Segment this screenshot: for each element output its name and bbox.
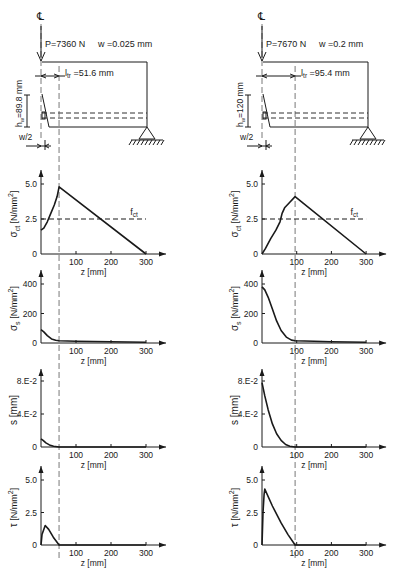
y-axis-label: σs [N/mm2] xyxy=(7,286,21,331)
crack-width-label: w =0.025 mm xyxy=(97,39,152,49)
chart-sigma-ct: 5.02.50100200300z [mm]σct [N/mm2]fct xyxy=(228,170,386,277)
x-axis-label: z [mm] xyxy=(301,267,327,277)
x-tick-label: 100 xyxy=(290,257,304,267)
x-axis-arrow-icon xyxy=(159,252,166,257)
x-axis-label: z [mm] xyxy=(81,356,107,366)
y-tick-label: 0 xyxy=(253,442,258,452)
x-tick-label: 300 xyxy=(139,548,153,558)
x-axis-arrow-icon xyxy=(159,543,166,548)
chart-sigma-ct: 5.02.50100200300z [mm]σct [N/mm2]fct xyxy=(7,170,166,277)
x-tick-label: 100 xyxy=(290,450,304,460)
x-axis-label: z [mm] xyxy=(301,356,327,366)
support-icon xyxy=(360,127,376,139)
x-axis-arrow-icon xyxy=(159,341,166,346)
x-tick-label: 100 xyxy=(69,346,83,356)
y-tick-label: 0 xyxy=(253,338,258,348)
x-tick-label: 200 xyxy=(324,257,338,267)
y-tick-label: 2.5 xyxy=(25,214,37,224)
fct-label: fct xyxy=(130,207,138,218)
x-tick-label: 200 xyxy=(324,346,338,356)
centerline-symbol: ℄ xyxy=(36,10,44,22)
x-axis-label: z [mm] xyxy=(301,460,327,470)
x-axis-arrow-icon xyxy=(159,445,166,450)
support-icon xyxy=(139,127,155,139)
y-tick-label: 200 xyxy=(244,309,258,319)
y-axis-label: s [mm] xyxy=(229,395,240,425)
x-tick-label: 300 xyxy=(359,548,373,558)
y-tick-label: 400 xyxy=(244,279,258,289)
x-axis-arrow-icon xyxy=(379,341,386,346)
panel-left: ℄P=7360 Nw =0.025 mmltr =51.6 mmhw=89.8 … xyxy=(7,10,166,568)
x-tick-label: 100 xyxy=(290,548,304,558)
x-tick-label: 300 xyxy=(139,450,153,460)
fct-label: fct xyxy=(350,207,358,218)
hw-label: hw=89.8 mm xyxy=(14,80,25,127)
y-axis-arrow-icon xyxy=(260,170,265,177)
x-tick-label: 100 xyxy=(69,450,83,460)
x-axis-label: z [mm] xyxy=(81,460,107,470)
x-axis-arrow-icon xyxy=(379,543,386,548)
data-curve xyxy=(41,526,146,546)
x-axis-arrow-icon xyxy=(379,445,386,450)
x-tick-label: 300 xyxy=(359,257,373,267)
y-tick-label: 0 xyxy=(32,442,37,452)
y-axis-arrow-icon xyxy=(39,170,44,177)
x-tick-label: 300 xyxy=(139,346,153,356)
y-axis-label: σct [N/mm2] xyxy=(228,190,242,237)
y-axis-label: τ [N/mm2] xyxy=(228,488,240,527)
y-axis-label: s [mm] xyxy=(8,395,19,425)
x-axis-arrow-icon xyxy=(379,252,386,257)
crack-analysis-figure: ℄P=7360 Nw =0.025 mmltr =51.6 mmhw=89.8 … xyxy=(0,0,399,577)
x-tick-label: 200 xyxy=(324,450,338,460)
ltr-label: ltr =51.6 mm xyxy=(65,68,114,79)
half-crack-width-label: w/2 xyxy=(18,132,33,142)
y-tick-label: 8.E-2 xyxy=(238,376,259,386)
x-axis-label: z [mm] xyxy=(81,558,107,568)
figure-canvas: ℄P=7360 Nw =0.025 mmltr =51.6 mmhw=89.8 … xyxy=(0,0,399,577)
y-tick-label: 200 xyxy=(23,309,37,319)
y-tick-label: 400 xyxy=(23,279,37,289)
panel-right: ℄P=7670 Nw =0.2 mmltr =95.4 mmhw=120 mmw… xyxy=(228,10,386,568)
data-curve xyxy=(41,439,146,447)
y-tick-label: 0 xyxy=(32,338,37,348)
y-axis-arrow-icon xyxy=(39,270,44,277)
x-tick-label: 300 xyxy=(359,450,373,460)
x-tick-label: 200 xyxy=(104,548,118,558)
y-axis-arrow-icon xyxy=(260,466,265,473)
x-tick-label: 200 xyxy=(104,257,118,267)
y-tick-label: 8.E-2 xyxy=(17,376,38,386)
x-tick-label: 100 xyxy=(69,257,83,267)
y-tick-label: 5.0 xyxy=(246,475,258,485)
chart-tau: 5.02.50100200300z [mm]τ [N/mm2] xyxy=(228,466,386,568)
y-tick-label: 5.0 xyxy=(246,179,258,189)
chart-slip-s: 8.E-24.E-20100200300z [mm]s [mm] xyxy=(8,369,166,470)
y-axis-label: σs [N/mm2] xyxy=(228,286,242,331)
y-axis-arrow-icon xyxy=(260,270,265,277)
y-tick-label: 2.5 xyxy=(25,508,37,518)
load-label: P=7360 N xyxy=(45,39,85,49)
x-tick-label: 300 xyxy=(359,346,373,356)
hw-label: hw=120 mm xyxy=(235,82,246,127)
y-tick-label: 5.0 xyxy=(25,475,37,485)
y-axis-arrow-icon xyxy=(39,369,44,376)
x-tick-label: 100 xyxy=(290,346,304,356)
x-tick-label: 200 xyxy=(104,450,118,460)
chart-sigma-s: 4002000100200300z [mm]σs [N/mm2] xyxy=(228,270,386,366)
y-tick-label: 4.E-2 xyxy=(238,409,259,419)
chart-sigma-s: 4002000100200300z [mm]σs [N/mm2] xyxy=(7,270,166,366)
x-tick-label: 200 xyxy=(324,548,338,558)
y-tick-label: 0 xyxy=(253,249,258,259)
x-tick-label: 300 xyxy=(139,257,153,267)
data-curve xyxy=(41,187,146,254)
y-tick-label: 0 xyxy=(32,249,37,259)
data-curve xyxy=(262,287,366,342)
data-curve xyxy=(262,383,366,447)
y-axis-arrow-icon xyxy=(39,466,44,473)
y-axis-arrow-icon xyxy=(260,369,265,376)
x-axis-label: z [mm] xyxy=(301,558,327,568)
y-tick-label: 2.5 xyxy=(246,214,258,224)
half-crack-width-label: w/2 xyxy=(239,132,254,142)
x-tick-label: 200 xyxy=(104,346,118,356)
y-tick-label: 0 xyxy=(32,540,37,550)
y-tick-label: 4.E-2 xyxy=(17,409,38,419)
